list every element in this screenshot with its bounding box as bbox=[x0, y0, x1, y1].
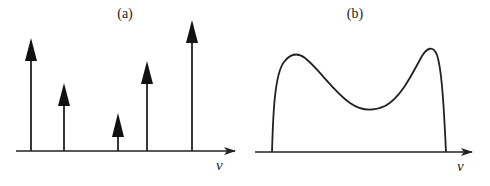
spectral-line-2 bbox=[58, 83, 70, 151]
spectral-line-1 bbox=[25, 38, 37, 151]
arrowhead-icon bbox=[141, 61, 153, 84]
spectral-line-4 bbox=[141, 61, 153, 151]
arrowhead-icon bbox=[186, 20, 198, 43]
panel-a-axis-label: ν bbox=[216, 157, 223, 173]
panel-b: (b) ν bbox=[255, 6, 472, 174]
panel-a: (a) ν bbox=[16, 6, 235, 173]
panel-b-axis-label: ν bbox=[457, 158, 464, 174]
arrowhead-icon bbox=[58, 83, 70, 106]
continuous-spectrum-curve bbox=[272, 49, 446, 152]
spectral-line-5 bbox=[186, 20, 198, 151]
arrowhead-icon bbox=[112, 113, 124, 137]
spectra-figure: (a) ν (b) ν bbox=[0, 0, 490, 186]
spectral-line-3 bbox=[112, 113, 124, 151]
arrowhead-icon bbox=[25, 38, 37, 61]
panel-a-label: (a) bbox=[117, 6, 133, 22]
panel-b-label: (b) bbox=[347, 6, 364, 22]
